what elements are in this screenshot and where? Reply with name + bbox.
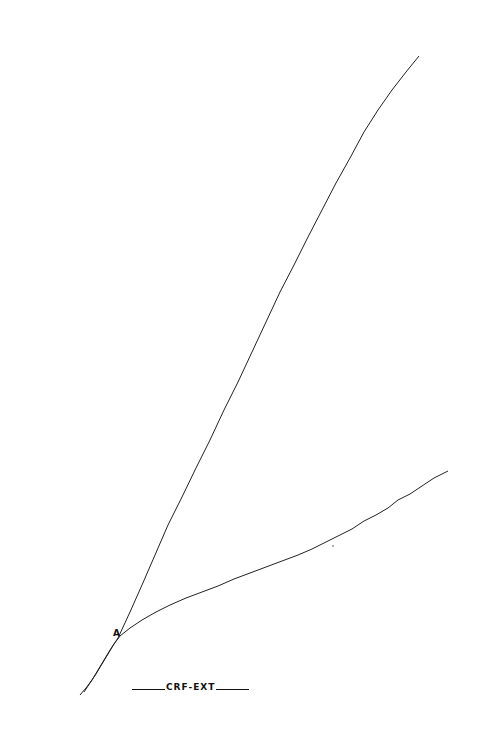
stray-dot [332,545,334,547]
caption-rule-right [216,689,249,690]
upper-branch-trace [118,56,419,638]
lower-branch-trace [120,471,448,636]
caption-rule-left [132,689,165,690]
figure-caption: CRF-EXT [132,682,249,692]
point-a-label: A [113,628,120,638]
common-trace-offset [84,636,120,692]
trace-plot [0,0,478,739]
caption-text: CRF-EXT [165,682,216,692]
